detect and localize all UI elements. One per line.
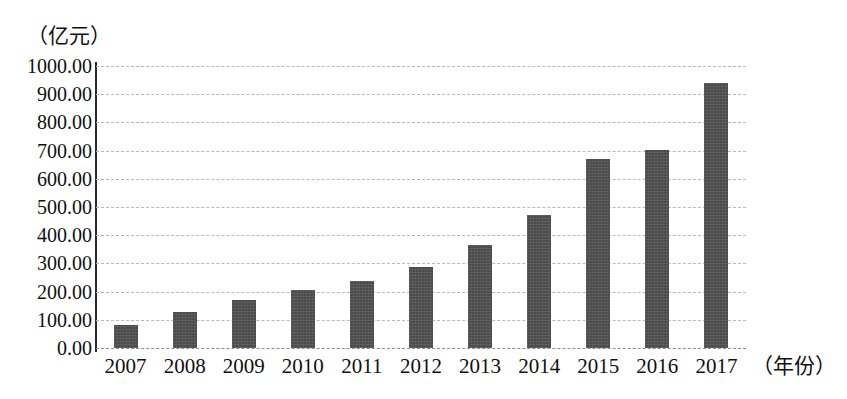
y-axis-tick-label: 400.00 — [0, 225, 92, 245]
y-axis-tick-label: 800.00 — [0, 112, 92, 132]
y-axis-tick-label: 200.00 — [0, 282, 92, 302]
y-axis-tick-label: 600.00 — [0, 169, 92, 189]
x-axis-unit-label: （年份） — [752, 352, 836, 380]
y-axis-tick-label: 0.00 — [0, 338, 92, 358]
bar-2016 — [645, 150, 669, 348]
bar-2009 — [232, 300, 256, 349]
bar-2008 — [173, 312, 197, 348]
y-axis-tick-label: 900.00 — [0, 84, 92, 104]
gridline — [96, 348, 746, 349]
bar-series — [96, 66, 746, 348]
bar-2017 — [704, 83, 728, 348]
bar-chart: （亿元） 1000.00900.00800.00700.00600.00500.… — [0, 0, 847, 399]
y-axis-tick-label: 500.00 — [0, 197, 92, 217]
y-axis-tick-label: 300.00 — [0, 253, 92, 273]
x-axis-tick-label: 2017 — [681, 352, 751, 380]
bar-2007 — [114, 325, 138, 348]
y-axis-unit-label: （亿元） — [27, 19, 111, 49]
y-axis-tick-labels: 1000.00900.00800.00700.00600.00500.00400… — [0, 66, 92, 348]
bar-2015 — [586, 159, 610, 349]
bar-2013 — [468, 245, 492, 348]
bar-2010 — [291, 290, 315, 348]
y-axis-tick-label: 1000.00 — [0, 56, 92, 76]
bar-2012 — [409, 267, 433, 348]
y-axis-tick-label: 100.00 — [0, 310, 92, 330]
bar-2011 — [350, 281, 374, 348]
y-axis-tick-label: 700.00 — [0, 141, 92, 161]
bar-2014 — [527, 215, 551, 348]
x-axis-tick-labels: 2007200820092010201120122013201420152016… — [96, 352, 746, 384]
